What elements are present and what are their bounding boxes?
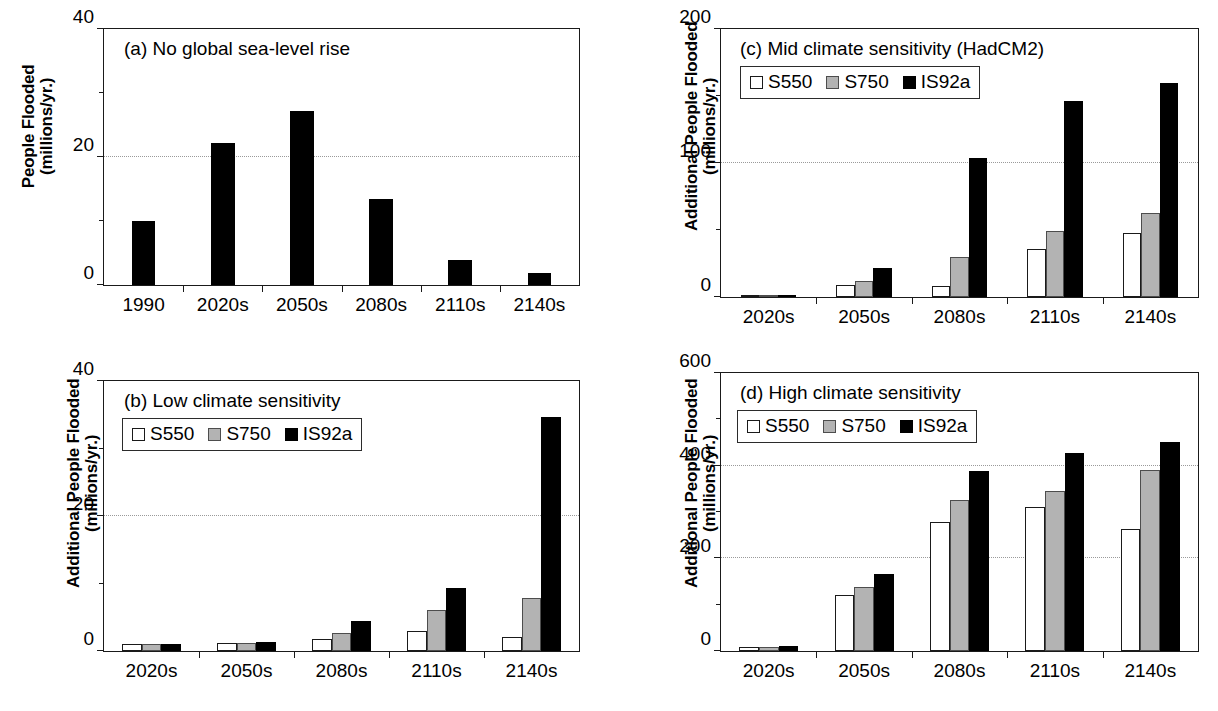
bar-is92a-2050s — [256, 642, 276, 651]
y-axis-tick — [714, 372, 721, 373]
x-axis-tick-label: 1990 — [122, 294, 164, 316]
bar-people flooded-2080s — [369, 199, 393, 285]
y-axis-tick-label: 0 — [83, 628, 94, 650]
bar-s550-2020s — [122, 644, 142, 651]
y-axis-tick-minor — [99, 448, 104, 449]
legend-swatch-is92a-icon — [903, 76, 916, 89]
y-axis-tick-minor — [716, 418, 721, 419]
bar-is92a-2140s — [1160, 83, 1178, 297]
y-axis-tick-label: 400 — [679, 443, 711, 465]
panel-d-y-axis-title: Additional People Flooded (millions/yr.) — [683, 358, 720, 608]
x-axis-tick — [912, 651, 913, 658]
y-axis-tick-label: 200 — [679, 535, 711, 557]
legend-swatch-s750-icon — [823, 420, 836, 433]
y-axis-tick-label: 20 — [73, 493, 94, 515]
x-axis-tick-label: 2110s — [1030, 660, 1080, 682]
bar-people flooded-1990 — [132, 221, 156, 285]
x-axis-tick — [389, 651, 390, 658]
panel-b-y-axis-title-line2: (millions/yr.) — [83, 358, 101, 608]
x-axis-tick-label: 2020s — [197, 294, 249, 316]
panel-c-legend-label-is92a: IS92a — [921, 71, 971, 93]
x-axis-tick — [1103, 651, 1104, 658]
panel-c-legend-entry-s550: S550 — [750, 71, 812, 93]
bar-is92a-2080s — [969, 158, 987, 297]
x-axis-tick — [816, 651, 817, 658]
y-axis-tick — [97, 650, 104, 651]
bar-s750-2020s — [759, 647, 779, 651]
y-axis-tick-label: 200 — [679, 6, 711, 28]
x-axis-tick-label: 2020s — [126, 660, 178, 682]
y-axis-tick-minor — [99, 583, 104, 584]
y-axis-tick-label: 40 — [73, 6, 94, 28]
panel-c-legend-label-s750: S750 — [844, 71, 888, 93]
y-axis-tick-minor — [99, 220, 104, 221]
y-axis-tick-minor — [716, 511, 721, 512]
bar-is92a-2110s — [1065, 453, 1085, 651]
bar-s550-2140s — [1123, 233, 1141, 297]
bar-is92a-2080s — [351, 621, 371, 651]
x-axis-tick — [912, 297, 913, 304]
panel-a-y-axis-title: People Flooded (millions/yr.) — [20, 56, 57, 196]
x-axis-tick-label: 2050s — [276, 294, 328, 316]
bar-s750-2140s — [522, 598, 542, 651]
legend-swatch-s750-icon — [826, 76, 839, 89]
legend-swatch-is92a-icon — [285, 428, 298, 441]
panel-d-y-axis-title-line1: Additional People Flooded — [683, 358, 701, 608]
panel-c-legend: S550 S750 IS92a — [740, 66, 980, 99]
x-axis-tick-label: 2110s — [435, 294, 485, 316]
y-axis-tick — [97, 515, 104, 516]
x-axis-tick-label: 2080s — [934, 660, 986, 682]
x-axis-tick-label: 2020s — [743, 660, 795, 682]
bar-s750-2140s — [1140, 470, 1160, 651]
y-axis-tick-label: 0 — [83, 262, 94, 284]
bar-is92a-2140s — [1160, 442, 1180, 651]
bar-s550-2110s — [1025, 507, 1045, 651]
x-axis-tick — [1007, 297, 1008, 304]
panel-d-legend: S550 S750 IS92a — [737, 410, 977, 443]
x-axis-tick-label: 2080s — [934, 306, 986, 328]
panel-b-legend-label-is92a: IS92a — [303, 423, 353, 445]
x-axis-tick — [500, 285, 501, 292]
panel-a-caption: (a) No global sea-level rise — [124, 38, 350, 60]
bar-s550-2020s — [741, 295, 759, 297]
panel-c-y-axis-title-line1: Additional People Flooded — [683, 1, 701, 251]
y-axis-tick — [714, 162, 721, 163]
gridline — [721, 162, 1198, 163]
bar-s750-2080s — [332, 633, 352, 651]
legend-swatch-s550-icon — [132, 428, 145, 441]
y-axis-tick-label: 20 — [73, 134, 94, 156]
panel-c: Additional People Flooded (millions/yr.)… — [609, 0, 1218, 350]
y-axis-tick-label: 600 — [679, 350, 711, 372]
panel-b-caption: (b) Low climate sensitivity — [124, 390, 340, 412]
y-axis-tick-label: 100 — [679, 140, 711, 162]
panel-b-y-axis-title-line1: Additional People Flooded — [65, 358, 83, 608]
gridline — [104, 515, 579, 516]
bar-is92a-2080s — [969, 471, 989, 651]
bar-is92a-2110s — [1064, 101, 1082, 297]
x-axis-tick-label: 2080s — [316, 660, 368, 682]
bar-s750-2080s — [950, 500, 970, 651]
gridline — [104, 156, 579, 157]
y-axis-tick-minor — [716, 229, 721, 230]
y-axis-tick — [97, 156, 104, 157]
panel-b-legend-entry-is92a: IS92a — [285, 423, 353, 445]
legend-swatch-s550-icon — [747, 420, 760, 433]
panel-d-caption: (d) High climate sensitivity — [740, 382, 961, 404]
bar-s750-2140s — [1141, 213, 1159, 297]
x-axis-tick-label: 2020s — [743, 306, 795, 328]
bar-is92a-2020s — [779, 646, 799, 651]
panel-a-plot-area: 0204019902020s2050s2080s2110s2140s — [103, 28, 580, 286]
x-axis-tick-label: 2080s — [355, 294, 407, 316]
bar-s750-2110s — [1045, 491, 1065, 651]
x-axis-tick-label: 2110s — [411, 660, 461, 682]
x-axis-tick — [816, 297, 817, 304]
bar-s550-2020s — [739, 647, 759, 651]
panel-b-legend-entry-s750: S750 — [208, 423, 270, 445]
legend-swatch-s750-icon — [208, 428, 221, 441]
legend-swatch-is92a-icon — [900, 420, 913, 433]
bar-people flooded-2110s — [448, 260, 472, 285]
bar-is92a-2050s — [873, 268, 891, 297]
x-axis-tick — [262, 285, 263, 292]
y-axis-tick-label: 0 — [700, 274, 711, 296]
panel-b-legend: S550 S750 IS92a — [122, 418, 362, 451]
